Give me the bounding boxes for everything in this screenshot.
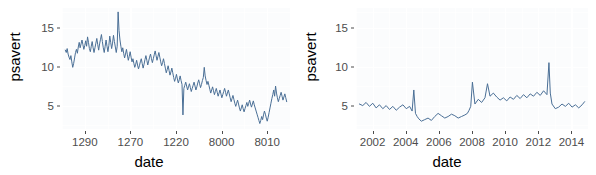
y-tick-mark (351, 66, 354, 67)
y-tick-mark (57, 66, 60, 67)
x-axis-title-right: date (298, 153, 596, 170)
y-tick-label: 5 (318, 100, 348, 112)
x-tick-label: 2014 (549, 136, 593, 148)
y-tick-mark (351, 105, 354, 106)
x-tick-mark (85, 131, 86, 134)
y-axis-title-right: psavert (302, 0, 318, 122)
chart-panel-right: psavert date 151052002200420062008201020… (298, 0, 596, 175)
x-tick-mark (267, 131, 268, 134)
x-tick-mark (176, 131, 177, 134)
x-tick-mark (222, 131, 223, 134)
x-tick-mark (406, 131, 407, 134)
y-tick-mark (57, 27, 60, 28)
series-path (359, 63, 584, 122)
y-axis-title-left: psavert (6, 0, 22, 122)
x-tick-label: 8000 (200, 136, 244, 148)
y-tick-label: 15 (318, 22, 348, 34)
x-tick-mark (439, 131, 440, 134)
y-tick-mark (351, 27, 354, 28)
x-axis-title-left: date (0, 153, 298, 170)
y-tick-label: 15 (24, 22, 54, 34)
y-tick-mark (57, 105, 60, 106)
figure-root: psavert date 1510512901270122080008010 p… (0, 0, 596, 175)
x-tick-mark (472, 131, 473, 134)
x-tick-mark (538, 131, 539, 134)
series-path (65, 12, 286, 124)
x-tick-mark (505, 131, 506, 134)
y-tick-label: 10 (24, 61, 54, 73)
chart-panel-left: psavert date 1510512901270122080008010 (0, 0, 298, 175)
gridline-vertical-minor (588, 8, 589, 129)
plot-area-right (356, 8, 588, 129)
plot-area-left (62, 8, 290, 129)
x-tick-label: 1220 (154, 136, 198, 148)
series-line-left (62, 8, 290, 129)
gridline-vertical-minor (290, 8, 291, 129)
x-tick-mark (130, 131, 131, 134)
x-tick-label: 1290 (63, 136, 107, 148)
x-tick-label: 1270 (108, 136, 152, 148)
y-tick-label: 10 (318, 61, 348, 73)
x-tick-mark (571, 131, 572, 134)
x-tick-mark (373, 131, 374, 134)
y-tick-label: 5 (24, 100, 54, 112)
x-tick-label: 8010 (245, 136, 289, 148)
series-line-right (356, 8, 588, 129)
